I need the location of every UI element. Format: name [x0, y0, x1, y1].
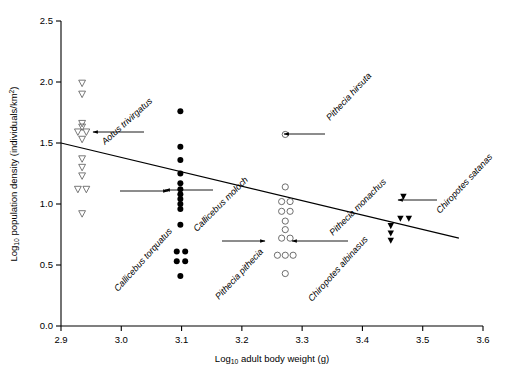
scatter-plot-figure: 0.00.51.01.52.02.5 2.93.03.13.23.33.43.5… — [0, 0, 521, 388]
data-point-series-1 — [177, 171, 183, 177]
data-point-series-1 — [182, 249, 188, 255]
x-tick-label: 3.3 — [296, 334, 309, 345]
data-point-series-1 — [182, 258, 188, 264]
y-axis-title: Log10 population density (individuals/km… — [8, 86, 20, 261]
y-tick-label: 0.5 — [40, 259, 53, 270]
data-point-series-1 — [174, 249, 180, 255]
x-tick-label: 3.0 — [115, 334, 128, 345]
y-tick-label: 0.0 — [40, 320, 53, 331]
plot-canvas: 0.00.51.01.52.02.5 2.93.03.13.23.33.43.5… — [0, 0, 521, 388]
data-point-series-1 — [177, 144, 183, 150]
data-point-series-1 — [174, 258, 180, 264]
y-tick-label: 2.5 — [40, 15, 53, 26]
data-point-series-1 — [177, 180, 183, 186]
data-point-series-1 — [177, 157, 183, 163]
x-tick-label: 3.4 — [356, 334, 369, 345]
x-tick-label: 3.2 — [235, 334, 248, 345]
data-point-series-1 — [177, 222, 183, 228]
data-point-series-1 — [177, 273, 183, 279]
x-tick-label: 3.1 — [175, 334, 188, 345]
y-tick-label: 1.0 — [40, 198, 53, 209]
y-tick-label: 2.0 — [40, 76, 53, 87]
figure-background — [0, 0, 521, 388]
y-tick-label: 1.5 — [40, 137, 53, 148]
x-tick-label: 3.6 — [476, 334, 489, 345]
x-tick-label: 2.9 — [54, 334, 67, 345]
x-tick-label: 3.5 — [416, 334, 429, 345]
data-point-series-1 — [177, 108, 183, 114]
data-point-series-1 — [177, 206, 183, 212]
